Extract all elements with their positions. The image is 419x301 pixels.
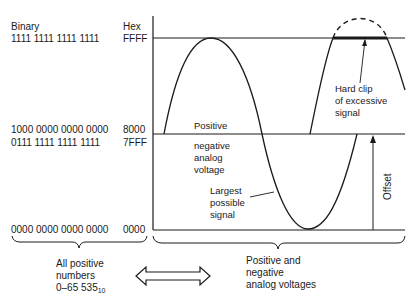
footer-left-subscript: 10 — [98, 287, 106, 294]
offset-label: Offset — [382, 174, 393, 201]
offset-arrowhead-icon — [370, 135, 376, 143]
binary-code-ffff: 1111 1111 1111 1111 — [11, 33, 99, 45]
negative-label-2: analog — [194, 152, 223, 164]
footer-right-line-2: negative — [246, 267, 284, 279]
footer-left-line-2: numbers — [56, 270, 95, 282]
right-brace — [153, 236, 405, 249]
largest-signal-label-2: possible — [210, 197, 245, 209]
hex-code-0000: 0000 — [123, 224, 145, 236]
footer-left-range: 0–65 535 — [56, 282, 98, 293]
hex-column-header: Hex — [123, 21, 141, 33]
largest-signal-label-3: signal — [210, 209, 235, 221]
binary-code-7fff: 0111 1111 1111 1111 — [11, 137, 100, 149]
left-brace — [12, 236, 147, 248]
footer-left-line-3: 0–65 53510 — [56, 282, 106, 297]
hex-code-7fff: 7FFF — [123, 137, 147, 149]
largest-signal-pointer — [250, 192, 274, 197]
double-arrow-icon — [136, 267, 210, 285]
positive-label: Positive — [194, 120, 227, 132]
footer-right-line-3: analog voltages — [246, 279, 316, 291]
hard-clip-pointer — [360, 40, 365, 83]
hex-code-ffff: FFFF — [123, 33, 147, 45]
negative-label-1: negative — [194, 140, 230, 152]
binary-column-header: Binary — [11, 21, 39, 33]
largest-signal-label-1: Largest — [210, 185, 242, 197]
footer-left-line-1: All positive — [56, 258, 104, 270]
hard-clip-label-2: of excessive — [335, 95, 387, 107]
excessive-signal-dashed — [333, 19, 387, 39]
hex-code-8000: 8000 — [123, 124, 145, 136]
binary-code-0000: 0000 0000 0000 0000 — [11, 224, 108, 236]
hard-clip-arrowhead-icon — [362, 39, 367, 46]
negative-label-3: voltage — [194, 164, 225, 176]
hard-clip-label-3: signal — [335, 107, 360, 119]
footer-right-line-1: Positive and — [246, 255, 300, 267]
hard-clip-label-1: Hard clip — [335, 83, 373, 95]
binary-code-8000: 1000 0000 0000 0000 — [11, 124, 108, 136]
